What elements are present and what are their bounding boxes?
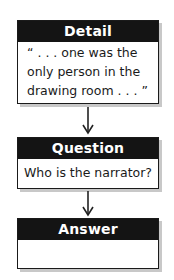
question-body: Who is the narrator? [18, 159, 158, 187]
detail-box: Detail “ . . . one was the only person i… [17, 20, 159, 104]
detail-header: Detail [18, 21, 158, 42]
question-box: Question Who is the narrator? [17, 137, 159, 189]
answer-body [18, 240, 158, 269]
answer-header: Answer [18, 219, 158, 240]
arrow-down-icon [82, 191, 94, 217]
answer-box: Answer [17, 218, 159, 269]
detail-body: “ . . . one was the only person in the d… [18, 42, 158, 100]
question-header: Question [18, 138, 158, 159]
arrow-down-icon [82, 107, 94, 135]
